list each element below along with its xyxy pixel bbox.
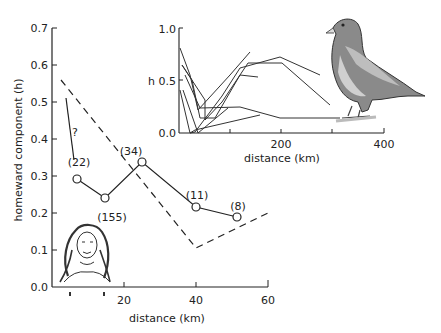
dashed-reference-curve <box>61 80 268 248</box>
y-tick-3: 0.3 <box>31 170 49 183</box>
inset-x-tick-labels: 200 400 <box>271 138 395 151</box>
main-y-ticks <box>52 28 57 250</box>
point-label: (11) <box>186 189 209 202</box>
inset-y-tick-05: 0.5 <box>159 75 177 88</box>
main-y-title: homeward component (h) <box>12 78 25 221</box>
data-point <box>73 175 81 183</box>
main-x-tick-labels: 20 40 60 <box>117 294 275 307</box>
y-tick-0: 0.0 <box>31 281 49 294</box>
inset-x-tick-200: 200 <box>271 138 292 151</box>
inset-x-tick-400: 400 <box>374 138 395 151</box>
y-tick-4: 0.4 <box>31 133 49 146</box>
main-chart: 0.0 0.1 0.2 0.3 0.4 0.5 0.6 0.7 20 40 60… <box>12 22 275 325</box>
track-line <box>180 57 320 133</box>
data-point <box>233 213 241 221</box>
x-tick-40: 40 <box>189 294 203 307</box>
point-label: (34) <box>120 145 143 158</box>
inset-y-title: h <box>148 75 155 88</box>
point-label: (22) <box>68 156 91 169</box>
question-mark: ? <box>72 126 78 139</box>
main-x-title: distance (km) <box>129 312 205 325</box>
inset-y-tick-0: 0.0 <box>159 127 177 140</box>
y-tick-5: 0.5 <box>31 96 49 109</box>
x-tick-60: 60 <box>261 294 275 307</box>
y-tick-6: 0.6 <box>31 59 49 72</box>
person-illustration <box>60 225 110 296</box>
y-tick-2: 0.2 <box>31 207 49 220</box>
observation-line <box>77 162 237 217</box>
inset-tracks <box>180 48 340 133</box>
data-point <box>138 158 146 166</box>
pigeon-illustration <box>326 19 425 121</box>
inset-y-tick-1: 1.0 <box>159 23 177 36</box>
y-tick-1: 0.1 <box>31 244 49 257</box>
track-line <box>180 48 250 110</box>
figure: 0.0 0.1 0.2 0.3 0.4 0.5 0.6 0.7 20 40 60… <box>0 0 441 333</box>
inset-x-title: distance (km) <box>244 152 320 165</box>
inset-y-tick-labels: 0.0 0.5 1.0 <box>159 23 177 140</box>
main-y-tick-labels: 0.0 0.1 0.2 0.3 0.4 0.5 0.6 0.7 <box>31 22 49 294</box>
point-label: (8) <box>230 200 246 213</box>
data-point <box>101 194 109 202</box>
point-label: (155) <box>97 211 127 224</box>
y-tick-7: 0.7 <box>31 22 49 35</box>
track-line <box>185 75 340 118</box>
inset-chart: 0.0 0.5 1.0 h 200 400 distance (km) <box>148 19 425 165</box>
main-x-ticks <box>124 280 268 287</box>
data-point <box>192 203 200 211</box>
x-tick-20: 20 <box>117 294 131 307</box>
